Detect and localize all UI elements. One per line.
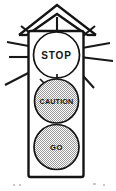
burst-ray-right-horizontal-lower	[80, 57, 113, 61]
lamp-stop-label: STOP	[41, 50, 72, 61]
scan-speck	[103, 184, 105, 186]
lamp-go-label: GO	[50, 143, 63, 152]
scan-artifacts	[13, 183, 105, 186]
lamp-go[interactable]: GO	[34, 125, 79, 170]
lamp-stop[interactable]: STOP	[34, 32, 80, 78]
illustration-canvas: STOP CAUTION GO	[0, 0, 116, 191]
scan-speck	[19, 184, 21, 186]
burst-ray-right-horizontal-upper	[82, 43, 110, 48]
scan-speck	[93, 183, 96, 185]
lamp-caution-label: CAUTION	[40, 97, 74, 106]
scan-speck	[13, 184, 15, 186]
lamp-caution[interactable]: CAUTION	[35, 79, 79, 123]
traffic-signal-illustration: STOP CAUTION GO	[0, 0, 116, 191]
